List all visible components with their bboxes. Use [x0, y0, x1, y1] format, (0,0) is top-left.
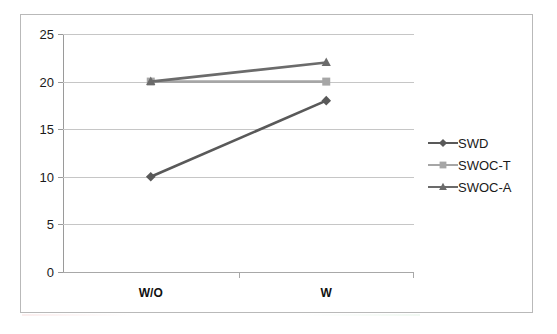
legend-item-swoc-t[interactable]: SWOC-T: [428, 154, 511, 176]
square-marker-icon: [428, 158, 458, 172]
series-swd: [146, 96, 331, 182]
x-tick-end: [413, 272, 414, 278]
chart-legend: SWDSWOC-TSWOC-A: [428, 132, 511, 198]
series-plot: [63, 34, 414, 272]
data-point-swd-w: [321, 96, 331, 106]
y-axis-label-10: 10: [40, 170, 54, 183]
diamond-marker-icon: [428, 136, 458, 150]
data-point-swoc-t-w: [322, 78, 330, 86]
data-point-swd-wo: [146, 172, 156, 182]
legend-label: SWOC-T: [458, 159, 511, 172]
y-axis-label-0: 0: [47, 266, 54, 279]
plot-area: 2520151050 W/OW: [63, 34, 414, 272]
x-axis-label-wo: W/O: [139, 287, 163, 299]
y-axis-label-25: 25: [40, 28, 54, 41]
x-tick-separator: [239, 272, 240, 278]
y-axis-label-5: 5: [47, 218, 54, 231]
y-axis-label-15: 15: [40, 123, 54, 136]
legend-label: SWOC-A: [458, 181, 511, 194]
scan-artifact-left: [22, 314, 132, 316]
series-line-swd: [151, 101, 327, 177]
legend-item-swd[interactable]: SWD: [428, 132, 511, 154]
y-tick-0: [58, 272, 63, 273]
scan-artifact-right: [300, 314, 420, 316]
series-line-swoc-a: [151, 63, 327, 82]
x-axis-label-w: W: [321, 287, 332, 299]
legend-item-swoc-a[interactable]: SWOC-A: [428, 176, 511, 198]
legend-label: SWD: [458, 137, 488, 150]
y-axis-label-20: 20: [40, 75, 54, 88]
triangle-marker-icon: [428, 180, 458, 194]
